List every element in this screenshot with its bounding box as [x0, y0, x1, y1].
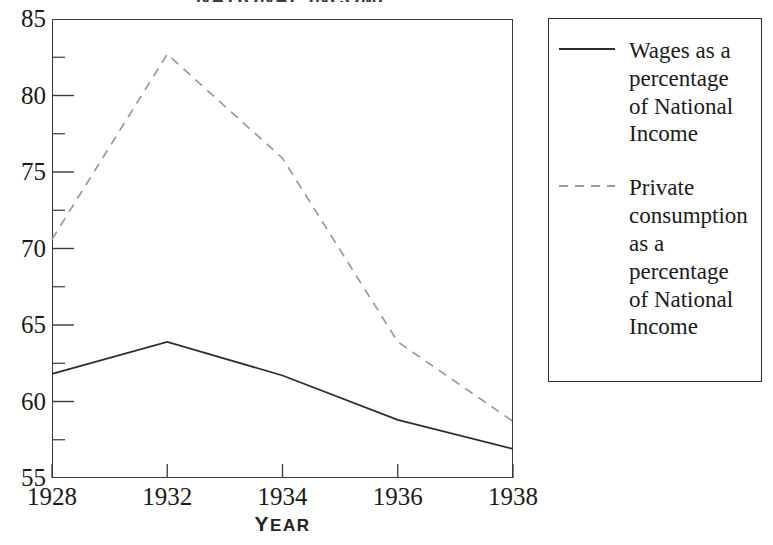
y-tick-label: 65	[0, 312, 46, 337]
y-tick-label: 60	[0, 389, 46, 414]
x-tick-label: 1932	[122, 484, 212, 509]
x-tick-label: 1928	[7, 484, 97, 509]
y-tick-label: 70	[0, 236, 46, 261]
dashed-line-swatch	[559, 181, 615, 203]
x-axis-title-rest: EAR	[270, 516, 310, 535]
series-line-dashed	[52, 54, 513, 421]
solid-line-swatch	[559, 44, 615, 66]
legend-item-wages[interactable]: Wages as a percentage of National Income	[559, 37, 751, 148]
y-tick-label: 85	[0, 6, 46, 31]
y-tick-label: 80	[0, 83, 46, 108]
series-line-solid	[52, 342, 513, 449]
x-axis-title: YEAR	[52, 512, 513, 536]
legend-label-wages: Wages as a percentage of National Income	[629, 37, 751, 148]
y-axis-ticks	[52, 57, 74, 440]
y-axis-labels: 55606570758085	[0, 0, 52, 545]
series-layer	[52, 19, 513, 478]
x-tick-label: 1938	[468, 484, 558, 509]
x-axis-title-first: Y	[255, 512, 271, 535]
x-axis-ticks	[52, 464, 513, 478]
chart-title-cropped: NATIONAL INCOME	[196, 0, 576, 2]
legend-items: Wages as a percentage of National Income…	[549, 19, 761, 381]
plot-area	[52, 19, 513, 478]
legend-item-private-consumption[interactable]: Private consumption as a percentage of N…	[559, 174, 751, 341]
y-tick-label: 75	[0, 159, 46, 184]
x-tick-label: 1936	[353, 484, 443, 509]
legend-label-private-consumption: Private consumption as a percentage of N…	[629, 174, 751, 341]
x-tick-label: 1934	[238, 484, 328, 509]
legend: Wages as a percentage of National Income…	[548, 18, 762, 382]
chart-figure: NATIONAL INCOME 55606570758085 YEAR Wage…	[0, 0, 773, 545]
